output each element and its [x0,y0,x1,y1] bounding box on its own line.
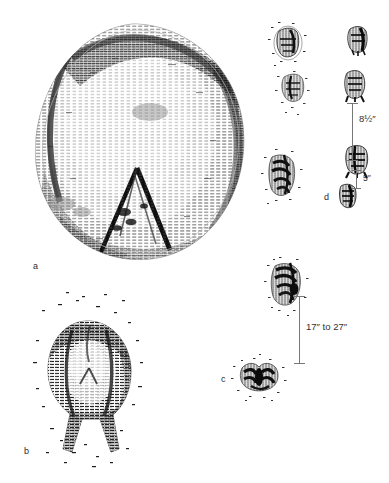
figure-b-splatter [33,292,143,467]
figure-label-c: c [221,375,226,384]
dimension-rule-stride [299,296,300,363]
figure-a-artwork [30,20,250,265]
dimension-cap-5-bottom [352,188,361,189]
dimension-cap-stride-top [294,296,305,297]
dimension-cap-8half-bottom [347,160,358,161]
figure-label-b: b [24,447,29,456]
figure-label-a: a [33,262,38,271]
figure-b-artwork [33,292,143,467]
dimension-label-8half: 8½″ [359,114,376,124]
dimension-label-stride: 17″ to 27″ [306,322,347,332]
figure-c-artwork [231,257,309,401]
figure-label-d: d [324,193,329,202]
dimension-rule-8half [352,103,353,160]
dimension-label-5: 5″ [363,174,371,183]
figure-plate: 8½″ 5″ 17″ to 27″ a b c d [0,0,389,483]
dimension-cap-5-top [352,170,361,171]
dimension-rule-5 [356,170,357,188]
dimension-cap-8half-top [347,103,358,104]
dimension-cap-stride-bottom [294,363,305,364]
illustration-artwork [0,0,389,483]
